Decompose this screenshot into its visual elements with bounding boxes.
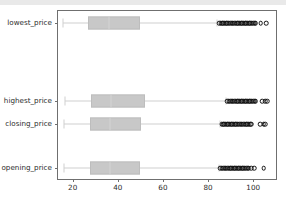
whisker-low [65,101,91,102]
plot-axes: 20406080100 [57,10,277,180]
outlier-point [252,166,257,171]
median-line [109,162,110,175]
x-tick-mark [73,179,74,182]
x-tick-label: 80 [203,183,212,192]
x-tick-label: 40 [113,183,122,192]
x-tick-mark [208,179,209,182]
cap-low [63,120,64,129]
box-iqr [90,162,141,175]
x-tick-mark [163,179,164,182]
x-tick-label: 20 [68,183,77,192]
outlier-point [249,122,254,127]
y-tick-label-highest-price: highest_price [4,96,52,105]
outlier-point [254,21,259,26]
y-tick-label-opening-price: opening_price [1,163,52,172]
outlier-point [261,166,266,171]
box-iqr [91,95,145,108]
whisker-low [64,124,90,125]
median-line [111,95,112,108]
x-tick-mark [253,179,254,182]
x-tick-label: 60 [158,183,167,192]
whisker-high [145,101,226,102]
cap-low [62,19,63,28]
outlier-point [259,21,264,26]
box-plot-figure: 20406080100 lowest_pricehighest_priceclo… [0,0,286,199]
x-tick-label: 100 [246,183,260,192]
outlier-point [264,21,269,26]
cap-low [64,97,65,106]
whisker-low [63,23,89,24]
whisker-high [141,124,220,125]
outlier-point [265,99,270,104]
outlier-point [254,99,259,104]
y-tick-mark [55,168,58,169]
whisker-low [64,168,90,169]
y-tick-mark [55,124,58,125]
box-iqr [90,118,142,131]
median-line [108,17,109,30]
y-tick-label-lowest-price: lowest_price [7,18,52,27]
whisker-high [140,23,217,24]
median-line [109,118,110,131]
x-tick-mark [118,179,119,182]
y-tick-label-closing-price: closing_price [5,119,52,128]
y-tick-mark [55,101,58,102]
y-tick-mark [55,23,58,24]
outlier-point [263,122,268,127]
top-bar [0,0,286,5]
box-iqr [88,17,140,30]
whisker-high [140,168,219,169]
cap-low [63,164,64,173]
